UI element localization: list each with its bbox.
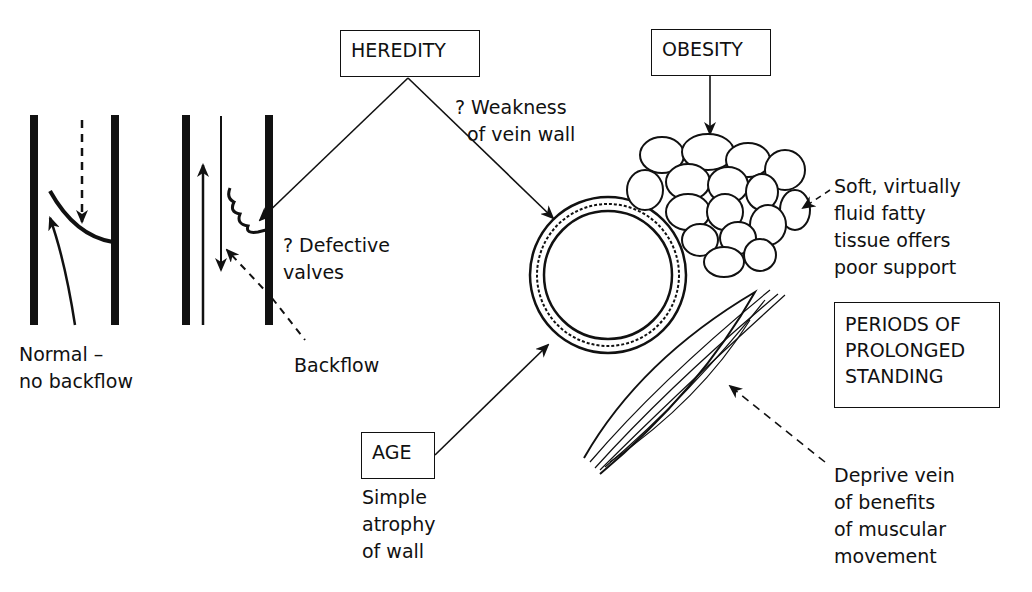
backflow-label: Backflow	[294, 352, 379, 379]
defective-label: ? Defective valves	[283, 232, 390, 286]
age-label: AGE	[372, 439, 424, 465]
vein-cross-section-icon	[530, 197, 686, 353]
obesity-box: OBESITY	[651, 29, 771, 76]
weakness-label: ? Weakness of vein wall	[455, 94, 575, 148]
normal-vein-valve-icon	[30, 115, 119, 325]
age-note-label: Simple atrophy of wall	[362, 484, 435, 565]
age-box: AGE	[361, 432, 435, 479]
fatty-tissue-label: Soft, virtually fluid fatty tissue offer…	[834, 173, 961, 281]
muscle-note-label: Deprive vein of benefits of muscular mov…	[834, 462, 955, 570]
heredity-box: HEREDITY	[340, 30, 480, 77]
defective-vein-valve-icon	[182, 115, 305, 340]
standing-box: PERIODS OF PROLONGED STANDING	[834, 302, 1000, 408]
standing-label-2: PROLONGED	[845, 337, 989, 363]
standing-label-1: PERIODS OF	[845, 311, 989, 337]
obesity-label: OBESITY	[662, 36, 760, 62]
normal-label: Normal – no backflow	[19, 341, 133, 395]
standing-label-3: STANDING	[845, 363, 989, 389]
heredity-label: HEREDITY	[351, 37, 469, 63]
